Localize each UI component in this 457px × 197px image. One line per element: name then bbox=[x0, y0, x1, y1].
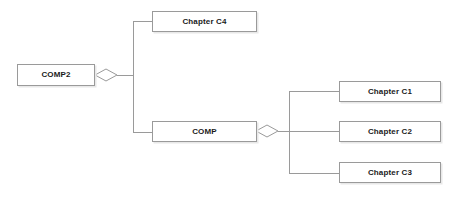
aggregation-diamond-comp bbox=[256, 125, 278, 137]
uml-node-chapter-c4-label: Chapter C4 bbox=[182, 18, 226, 26]
uml-node-chapter-c4[interactable]: Chapter C4 bbox=[152, 11, 257, 32]
uml-node-chapter-c2[interactable]: Chapter C2 bbox=[339, 121, 441, 142]
uml-node-chapter-c3[interactable]: Chapter C3 bbox=[339, 162, 441, 183]
uml-node-comp2-label: COMP2 bbox=[41, 71, 70, 79]
uml-node-comp[interactable]: COMP bbox=[152, 121, 257, 142]
aggregation-diamond-comp2 bbox=[95, 69, 117, 81]
uml-node-chapter-c1[interactable]: Chapter C1 bbox=[339, 81, 441, 102]
uml-diagram-canvas: COMP2 Chapter C4 COMP Chapter C1 Chapter… bbox=[0, 0, 457, 197]
uml-node-chapter-c1-label: Chapter C1 bbox=[368, 88, 412, 96]
uml-node-comp-label: COMP bbox=[192, 128, 217, 136]
uml-node-comp2[interactable]: COMP2 bbox=[17, 64, 95, 86]
uml-node-chapter-c3-label: Chapter C3 bbox=[368, 169, 412, 177]
uml-node-chapter-c2-label: Chapter C2 bbox=[368, 128, 412, 136]
